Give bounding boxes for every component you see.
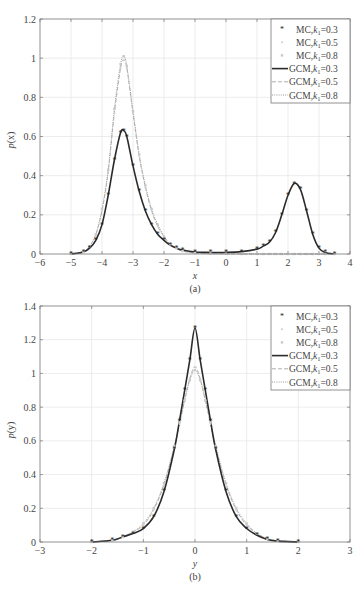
mc-marker: * (317, 244, 321, 253)
x-tick-label: −1 (138, 545, 149, 556)
mc-marker: * (125, 133, 129, 142)
x-tick-label: −3 (128, 257, 139, 268)
mc-marker (101, 210, 103, 212)
y-tick-label: 1.2 (24, 334, 37, 345)
x-tick-label: 3 (348, 545, 353, 556)
mc-marker (235, 509, 237, 511)
legend-dot-icon (281, 328, 283, 330)
mc-marker (189, 377, 191, 379)
legend-entry-label: MC,k1=0.3 (296, 312, 338, 323)
y-tick-label: 1.4 (24, 301, 37, 312)
mc-marker: * (255, 245, 259, 254)
chart-panel-b: *********************** −3−2−1012300.20.… (5, 301, 353, 584)
mc-marker (138, 155, 140, 157)
x-tick-label: −2 (159, 257, 170, 268)
mc-marker (120, 67, 122, 69)
mc-marker (107, 169, 109, 171)
mc-marker: * (203, 386, 207, 395)
x-tick-label: 1 (244, 545, 249, 556)
mc-marker: * (323, 248, 327, 257)
mc-marker (126, 65, 128, 67)
mc-marker: * (209, 417, 213, 426)
x-tick-label: 0 (224, 257, 229, 268)
mc-marker (163, 484, 165, 486)
x-tick-label: −6 (35, 257, 46, 268)
mc-marker (144, 186, 146, 188)
mc-marker: * (94, 236, 98, 245)
mc-marker: * (311, 230, 315, 239)
legend-entry-label: GCM,k1=0.3 (289, 351, 338, 362)
y-axis-label-a: p(x) (5, 132, 17, 150)
mc-marker: * (188, 356, 192, 365)
mc-marker: * (162, 487, 166, 496)
mc-marker (123, 55, 125, 57)
mc-marker: * (198, 356, 202, 365)
mc-marker: * (224, 487, 228, 496)
mc-marker (153, 509, 155, 511)
mc-marker: * (255, 531, 259, 540)
mc-marker: * (286, 191, 290, 200)
caption-b: (b) (189, 571, 201, 583)
mc-marker (101, 208, 103, 210)
mc-marker (144, 184, 146, 186)
y-tick-label: 1.2 (24, 14, 37, 25)
mc-marker: * (162, 236, 166, 245)
y-tick-label: 1 (31, 368, 36, 379)
legend-entry-label: GCM,k1=0.5 (289, 364, 338, 375)
y-tick-label: 0 (31, 249, 36, 260)
mc-marker: * (100, 221, 104, 230)
x-tick-label: −4 (97, 257, 108, 268)
mc-marker (151, 210, 153, 212)
y-axis-label-b: p(y) (5, 422, 17, 440)
x-tick-label: 2 (296, 545, 301, 556)
mc-marker (157, 226, 159, 228)
figure: ************************************ −6−… (0, 0, 364, 592)
mc-marker: * (131, 530, 135, 539)
legend-star-icon: * (280, 25, 284, 34)
mc-marker (132, 110, 134, 112)
y-tick-label: 0.2 (24, 503, 37, 514)
mc-marker: * (152, 513, 156, 522)
x-tick-label: 1 (255, 257, 260, 268)
x-tick-label: 4 (348, 257, 353, 268)
mc-marker: * (261, 242, 265, 251)
legend-square-icon (281, 341, 283, 343)
x-tick-label: 2 (286, 257, 291, 268)
legend-dot-icon (281, 41, 283, 43)
y-tick-label: 0.2 (24, 209, 37, 220)
mc-marker: * (112, 156, 116, 165)
mc-marker: * (240, 248, 244, 257)
mc-marker: * (274, 228, 278, 237)
x-axis-label-a: x (192, 270, 198, 281)
mc-marker: * (298, 185, 302, 194)
x-tick-label: 3 (317, 257, 322, 268)
mc-marker (138, 153, 140, 155)
y-tick-label: 0 (31, 537, 36, 548)
x-tick-label: −3 (35, 545, 46, 556)
legend-entry-label: MC,k1=0.5 (296, 325, 338, 336)
y-tick-label: 0.8 (24, 402, 37, 413)
mc-marker: * (193, 248, 197, 257)
legend-entry-label: MC,k1=0.8 (296, 338, 338, 349)
mc-marker: * (141, 525, 145, 534)
chart-panel-a: ************************************ −6−… (5, 14, 353, 296)
mc-marker (95, 233, 97, 235)
mc-marker (119, 63, 121, 65)
mc-marker: * (88, 244, 92, 253)
mc-marker: * (209, 248, 213, 257)
y-tick-label: 0.8 (24, 92, 37, 103)
mc-marker (199, 377, 201, 379)
mc-marker (113, 108, 115, 110)
mc-marker: * (150, 221, 154, 230)
mc-marker (194, 366, 196, 368)
legend-entry-label: GCM,k1=0.5 (289, 77, 338, 88)
legend-b: *MC,k1=0.3MC,k1=0.5MC,k1=0.8GCM,k1=0.3GC… (271, 306, 350, 390)
caption-a: (a) (189, 283, 200, 295)
legend-entry-label: GCM,k1=0.8 (289, 378, 338, 389)
x-tick-label: −1 (190, 257, 201, 268)
legend-square-icon (281, 54, 283, 56)
legend-a: *MC,k1=0.3MC,k1=0.5MC,k1=0.8GCM,k1=0.3GC… (271, 19, 350, 103)
mc-marker: * (280, 211, 284, 220)
mc-marker: * (245, 525, 249, 534)
mc-marker (126, 67, 128, 69)
